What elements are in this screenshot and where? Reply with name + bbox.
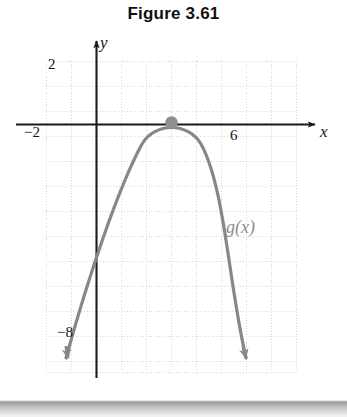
parabola-path xyxy=(66,128,246,359)
figure-title: Figure 3.61 xyxy=(0,4,347,24)
y-tick-label-2: 2 xyxy=(48,57,56,72)
y-tick-label-neg8: −8 xyxy=(57,325,73,340)
function-curve-g xyxy=(66,116,246,358)
x-axis-label: x xyxy=(320,123,328,140)
y-axis-label: y xyxy=(100,34,108,51)
x-tick-label-6: 6 xyxy=(230,128,238,143)
curve-label-gx: g(x) xyxy=(226,217,255,238)
scan-artifact-bar xyxy=(0,400,347,417)
graph-svg xyxy=(0,28,347,383)
curve-arrow-right xyxy=(243,346,246,358)
grid-lines xyxy=(46,61,297,373)
figure-container: Figure 3.61 xyxy=(0,0,347,417)
vertex-point-marker xyxy=(165,116,178,129)
curve-arrow-left xyxy=(66,346,68,358)
x-tick-label-neg2: −2 xyxy=(24,125,40,140)
plot-area: y x 2 −2 6 −8 g(x) xyxy=(0,28,347,383)
